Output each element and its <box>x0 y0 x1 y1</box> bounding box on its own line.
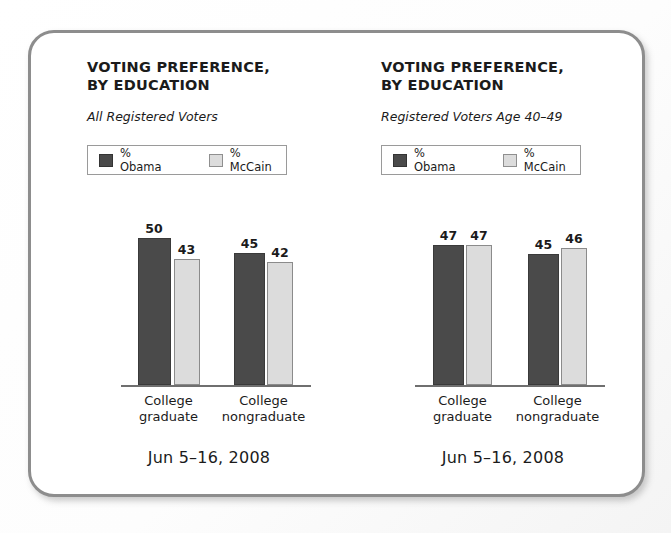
chart-panel-age-40-49: VOTING PREFERENCE, BY EDUCATION Register… <box>353 33 653 494</box>
bar-group-college-graduate: 50 43 <box>121 203 216 385</box>
bar-chart-plot: 50 43 45 42 <box>59 203 359 387</box>
panel-title-line1: VOTING PREFERENCE, <box>87 59 270 75</box>
category-line2: graduate <box>415 409 510 425</box>
bar-obama <box>138 238 171 385</box>
legend-swatch-obama-icon <box>393 154 407 167</box>
bar-mccain <box>561 248 587 385</box>
survey-date: Jun 5–16, 2008 <box>79 448 339 467</box>
panel-subtitle: All Registered Voters <box>87 109 349 124</box>
x-axis-line <box>121 385 311 387</box>
bar-group-college-graduate: 47 47 <box>415 203 510 385</box>
legend-label-mccain: % McCain <box>524 146 580 174</box>
bar-value-label: 50 <box>145 222 162 236</box>
bar-value-label: 47 <box>440 229 457 243</box>
legend-swatch-obama-icon <box>99 154 113 167</box>
category-line1: College <box>510 393 605 409</box>
chart-panel-all-voters: VOTING PREFERENCE, BY EDUCATION All Regi… <box>59 33 359 494</box>
chart-legend: % Obama % McCain <box>381 145 581 175</box>
panel-title-line1: VOTING PREFERENCE, <box>381 59 564 75</box>
bar-slot-mccain: 47 <box>466 203 492 385</box>
bar-value-label: 45 <box>241 237 258 251</box>
category-label-college-nongraduate: College nongraduate <box>510 393 605 425</box>
bar-obama <box>433 245 464 385</box>
bar-group-college-nongraduate: 45 42 <box>216 203 311 385</box>
bar-value-label: 46 <box>565 232 582 246</box>
legend-item-obama: % Obama <box>393 146 470 174</box>
legend-swatch-mccain-icon <box>503 154 517 167</box>
bar-obama <box>234 253 265 385</box>
bar-groups: 50 43 45 42 <box>121 203 311 385</box>
panel-subtitle: Registered Voters Age 40–49 <box>381 109 643 124</box>
category-line2: nongraduate <box>216 409 311 425</box>
bar-slot-mccain: 42 <box>267 203 293 385</box>
chart-legend: % Obama % McCain <box>87 145 287 175</box>
bar-value-label: 43 <box>178 243 195 257</box>
legend-item-mccain: % McCain <box>209 146 286 174</box>
panel-title: VOTING PREFERENCE, BY EDUCATION <box>381 59 631 94</box>
category-labels: College graduate College nongraduate <box>415 393 605 425</box>
bar-value-label: 47 <box>470 229 487 243</box>
category-line1: College <box>121 393 216 409</box>
bar-slot-obama: 45 <box>528 203 559 385</box>
bar-obama <box>528 254 559 385</box>
bar-mccain <box>466 245 492 385</box>
category-line1: College <box>415 393 510 409</box>
survey-date: Jun 5–16, 2008 <box>373 448 633 467</box>
category-line1: College <box>216 393 311 409</box>
category-line2: graduate <box>121 409 216 425</box>
category-line2: nongraduate <box>510 409 605 425</box>
bar-chart-plot: 47 47 45 46 <box>353 203 653 387</box>
bar-slot-obama: 50 <box>138 203 171 385</box>
category-label-college-nongraduate: College nongraduate <box>216 393 311 425</box>
legend-label-obama: % Obama <box>414 146 470 174</box>
legend-label-obama: % Obama <box>120 146 176 174</box>
category-label-college-graduate: College graduate <box>415 393 510 425</box>
legend-label-mccain: % McCain <box>230 146 286 174</box>
category-label-college-graduate: College graduate <box>121 393 216 425</box>
panel-title: VOTING PREFERENCE, BY EDUCATION <box>87 59 337 94</box>
bar-groups: 47 47 45 46 <box>415 203 605 385</box>
category-labels: College graduate College nongraduate <box>121 393 311 425</box>
chart-card: VOTING PREFERENCE, BY EDUCATION All Regi… <box>28 30 645 497</box>
bar-slot-obama: 45 <box>234 203 265 385</box>
bar-value-label: 42 <box>271 246 288 260</box>
bar-group-college-nongraduate: 45 46 <box>510 203 605 385</box>
bar-slot-obama: 47 <box>433 203 464 385</box>
panel-title-line2: BY EDUCATION <box>381 77 504 93</box>
panel-title-line2: BY EDUCATION <box>87 77 210 93</box>
bar-slot-mccain: 43 <box>174 203 200 385</box>
bar-value-label: 45 <box>535 238 552 252</box>
bar-mccain <box>174 259 200 385</box>
legend-item-mccain: % McCain <box>503 146 580 174</box>
legend-item-obama: % Obama <box>99 146 176 174</box>
legend-swatch-mccain-icon <box>209 154 223 167</box>
bar-mccain <box>267 262 293 385</box>
bar-slot-mccain: 46 <box>561 203 587 385</box>
x-axis-line <box>415 385 605 387</box>
